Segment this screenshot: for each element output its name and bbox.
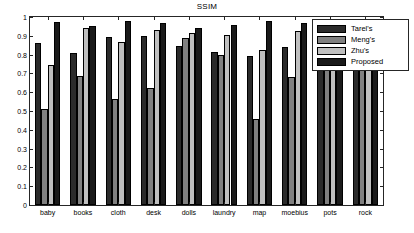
y-axis-tick-mark-right — [380, 186, 383, 187]
x-axis-tick-label-map: map — [253, 209, 267, 216]
y-axis-tick-label: 0.8 — [17, 51, 27, 58]
y-axis-tick-label: 0.1 — [17, 183, 27, 190]
y-axis-tick-mark — [30, 73, 33, 74]
bar-moebius-proposed — [301, 23, 307, 205]
y-axis-tick-mark-right — [380, 73, 383, 74]
y-axis-tick-mark — [30, 55, 33, 56]
bar-laundry-proposed — [231, 25, 237, 205]
x-axis-tick-label-pots: pots — [323, 209, 336, 216]
x-axis-tick-label-baby: baby — [40, 209, 55, 216]
legend-item-meng-s[interactable]: Meng's — [317, 34, 404, 45]
y-axis-tick-mark-right — [380, 130, 383, 131]
legend-swatch-icon — [317, 36, 346, 44]
x-axis-tick-label-cloth: cloth — [111, 209, 126, 216]
chart-title: SSIM — [0, 2, 414, 11]
y-axis-tick-label: 0 — [23, 202, 27, 209]
y-axis-tick-label: 0.5 — [17, 108, 27, 115]
bar-baby-proposed — [54, 22, 60, 205]
legend-swatch-icon — [317, 47, 346, 55]
x-axis-tick-mark-top — [295, 17, 296, 20]
y-axis-tick-label: 0.7 — [17, 70, 27, 77]
ssim-bar-chart-figure: SSIM 00.10.20.30.40.50.60.70.80.91babybo… — [0, 0, 414, 233]
bar-cloth-proposed — [125, 21, 131, 205]
bar-dolls-proposed — [195, 28, 201, 205]
x-axis-tick-label-books: books — [74, 209, 93, 216]
y-axis-tick-mark — [30, 92, 33, 93]
y-axis-tick-mark — [30, 17, 33, 18]
x-axis-tick-mark-top — [189, 17, 190, 20]
y-axis-tick-mark — [30, 186, 33, 187]
x-axis-tick-mark-top — [259, 17, 260, 20]
legend-item-zhu-s[interactable]: Zhu's — [317, 45, 404, 56]
legend-label: Tarel's — [351, 24, 372, 33]
y-axis-tick-label: 0.9 — [17, 32, 27, 39]
y-axis-tick-label: 1 — [23, 14, 27, 21]
y-axis-tick-label: 0.3 — [17, 145, 27, 152]
x-axis-tick-mark-top — [224, 17, 225, 20]
legend-label: Zhu's — [351, 46, 369, 55]
y-axis-tick-mark — [30, 167, 33, 168]
legend-item-tarel-s[interactable]: Tarel's — [317, 23, 404, 34]
y-axis-tick-label: 0.4 — [17, 126, 27, 133]
y-axis-tick-mark — [30, 111, 33, 112]
y-axis-tick-mark-right — [380, 92, 383, 93]
y-axis-tick-mark — [30, 149, 33, 150]
x-axis-tick-mark — [118, 202, 119, 205]
x-axis-tick-mark — [83, 202, 84, 205]
bar-desk-proposed — [160, 23, 166, 205]
chart-legend: Tarel'sMeng'sZhu'sProposed — [312, 19, 409, 71]
x-axis-tick-label-dolls: dolls — [182, 209, 196, 216]
x-axis-tick-mark — [48, 202, 49, 205]
x-axis-tick-mark-top — [118, 17, 119, 20]
x-axis-tick-mark — [365, 202, 366, 205]
x-axis-tick-mark — [154, 202, 155, 205]
x-axis-tick-mark-top — [83, 17, 84, 20]
legend-item-proposed[interactable]: Proposed — [317, 56, 404, 67]
y-axis-tick-mark-right — [380, 205, 383, 206]
legend-swatch-icon — [317, 25, 346, 33]
y-axis-tick-mark-right — [380, 149, 383, 150]
y-axis-tick-mark-right — [380, 167, 383, 168]
x-axis-tick-label-rock: rock — [359, 209, 372, 216]
x-axis-tick-mark — [330, 202, 331, 205]
x-axis-tick-mark — [224, 202, 225, 205]
bar-map-proposed — [266, 21, 272, 205]
y-axis-tick-mark — [30, 130, 33, 131]
x-axis-tick-mark — [295, 202, 296, 205]
y-axis-tick-label: 0.2 — [17, 164, 27, 171]
y-axis-tick-mark — [30, 205, 33, 206]
x-axis-tick-label-laundry: laundry — [213, 209, 236, 216]
x-axis-tick-label-moebius: moebius — [282, 209, 308, 216]
y-axis-tick-mark-right — [380, 111, 383, 112]
x-axis-tick-mark — [189, 202, 190, 205]
legend-label: Proposed — [351, 57, 383, 66]
x-axis-tick-mark — [259, 202, 260, 205]
x-axis-tick-mark-top — [154, 17, 155, 20]
legend-swatch-icon — [317, 58, 346, 66]
y-axis-tick-mark — [30, 36, 33, 37]
x-axis-tick-mark-top — [48, 17, 49, 20]
x-axis-tick-label-desk: desk — [146, 209, 161, 216]
legend-label: Meng's — [351, 35, 375, 44]
y-axis-tick-label: 0.6 — [17, 89, 27, 96]
bar-books-proposed — [89, 26, 95, 205]
y-axis-tick-mark-right — [380, 17, 383, 18]
